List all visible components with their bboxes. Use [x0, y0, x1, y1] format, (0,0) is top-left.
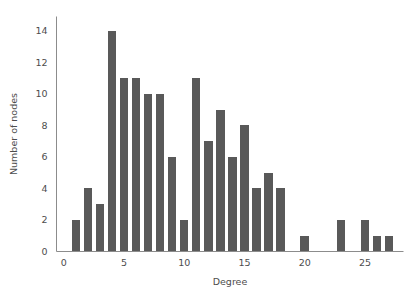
- y-tick-label-10: 10: [35, 88, 47, 99]
- y-tick-label-0: 0: [41, 246, 47, 257]
- bar-degree-5: [120, 78, 128, 251]
- y-tick-label-4: 4: [41, 183, 47, 194]
- bar-degree-16: [252, 188, 260, 251]
- bar-degree-11: [192, 78, 200, 251]
- bar-degree-2: [84, 188, 92, 251]
- x-tick-label-10: 10: [178, 257, 190, 268]
- bar-degree-13: [216, 110, 224, 252]
- bar-degree-8: [156, 94, 164, 252]
- bar-degree-9: [168, 157, 176, 252]
- y-axis-title: Number of nodes: [8, 93, 19, 175]
- bar-degree-10: [180, 220, 188, 252]
- histogram-chart: 0510152025 02468101214 Degree Number of …: [0, 0, 418, 297]
- bar-degree-18: [276, 188, 284, 251]
- bar-degree-12: [204, 141, 212, 251]
- bar-degree-15: [240, 125, 248, 251]
- bar-degree-25: [361, 220, 369, 252]
- bar-degree-27: [385, 236, 393, 252]
- bar-degree-6: [132, 78, 140, 251]
- bar-degree-23: [337, 220, 345, 252]
- bar-degree-1: [72, 220, 80, 252]
- x-tick-label-20: 20: [299, 257, 311, 268]
- x-tick-label-25: 25: [359, 257, 371, 268]
- x-axis-title: Degree: [213, 276, 248, 287]
- bar-degree-26: [373, 236, 381, 252]
- bar-degree-7: [144, 94, 152, 252]
- chart-canvas: 0510152025 02468101214 Degree Number of …: [0, 0, 418, 297]
- bar-degree-3: [96, 204, 104, 251]
- x-tick-label-0: 0: [61, 257, 67, 268]
- bar-degree-4: [108, 31, 116, 252]
- bar-degree-20: [300, 236, 308, 252]
- y-tick-label-8: 8: [41, 120, 47, 131]
- bar-degree-14: [228, 157, 236, 252]
- y-tick-label-6: 6: [41, 151, 47, 162]
- bar-degree-17: [264, 173, 272, 252]
- y-tick-label-2: 2: [41, 214, 47, 225]
- y-tick-label-12: 12: [35, 57, 47, 68]
- x-tick-label-5: 5: [121, 257, 127, 268]
- x-tick-label-15: 15: [238, 257, 250, 268]
- y-tick-label-14: 14: [35, 25, 47, 36]
